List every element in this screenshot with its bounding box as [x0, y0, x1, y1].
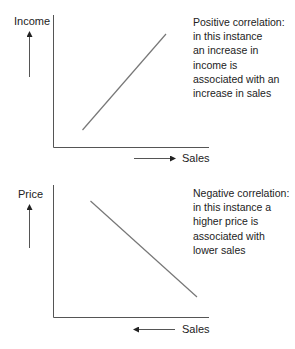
negative-correlation-description: Negative correlation: in this instance a…	[193, 186, 293, 257]
desc-line: in this instance a	[193, 200, 293, 214]
negative-trend-line	[91, 201, 198, 297]
y-axis-label-price: Price	[18, 188, 43, 201]
x-axis-label-sales: Sales	[182, 323, 210, 336]
desc-line: Positive correlation:	[193, 15, 293, 29]
desc-line: associated with	[193, 229, 293, 243]
x-axis-label-sales: Sales	[182, 152, 210, 165]
desc-line: Negative correlation:	[193, 186, 293, 200]
positive-correlation-description: Positive correlation: in this instance a…	[193, 15, 293, 100]
desc-line: associated with an	[193, 72, 293, 86]
desc-line: increase in sales	[193, 86, 293, 100]
y-axis-label-income: Income	[14, 15, 50, 28]
desc-line: higher price is	[193, 214, 293, 228]
negative-correlation-chart	[30, 185, 210, 330]
desc-line: lower sales	[193, 243, 293, 257]
desc-line: income is	[193, 58, 293, 72]
positive-correlation-chart	[30, 15, 210, 159]
positive-trend-line	[83, 34, 167, 130]
desc-line: an increase in	[193, 43, 293, 57]
desc-line: in this instance	[193, 29, 293, 43]
